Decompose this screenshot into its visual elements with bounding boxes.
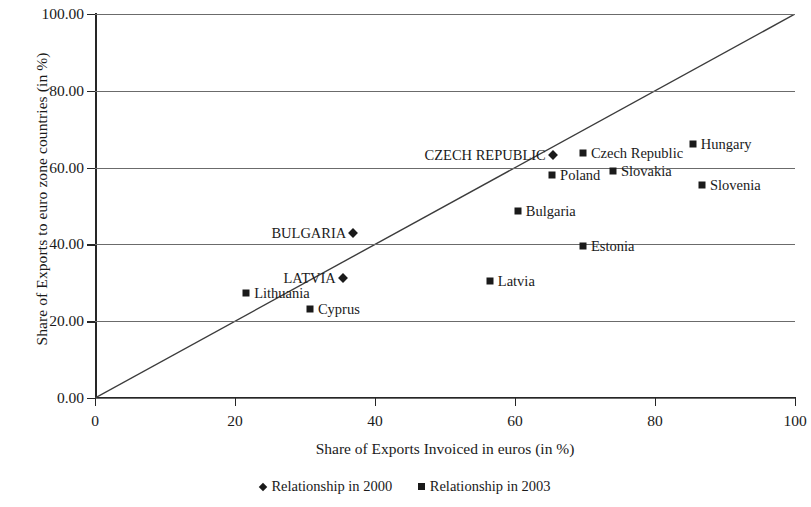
y-axis-tick xyxy=(87,14,95,15)
x-axis-tick-label: 80 xyxy=(647,412,663,430)
gridline-horizontal xyxy=(95,244,795,245)
y-axis-tick-label: 20.00 xyxy=(49,312,84,330)
y-axis-tick xyxy=(87,91,95,92)
y-axis-tick-label: 80.00 xyxy=(49,82,84,100)
x-axis-tick-label: 0 xyxy=(91,412,99,430)
data-point-label: Latvia xyxy=(498,272,535,289)
y-axis-title: Share of Exports to euro zone countries … xyxy=(33,0,51,399)
data-point-label: Lithuania xyxy=(254,285,310,302)
data-point-label: Czech Republic xyxy=(591,145,683,162)
data-point-label: Slovenia xyxy=(710,176,761,193)
data-point-cyprus-2003[interactable] xyxy=(306,305,313,312)
y-axis-tick-label: 100.00 xyxy=(41,5,84,23)
data-point-label: Poland xyxy=(560,166,600,183)
data-point-slovakia-2003[interactable] xyxy=(610,168,617,175)
chart-legend: Relationship in 2000 Relationship in 200… xyxy=(0,478,811,495)
x-axis-tick xyxy=(375,398,376,406)
y-axis-tick xyxy=(87,168,95,169)
reference-line-45-degree xyxy=(95,14,795,398)
y-axis-tick-label: 0.00 xyxy=(57,389,84,407)
data-point-slovenia-2003[interactable] xyxy=(698,181,705,188)
data-point-label: CZECH REPUBLIC xyxy=(425,146,546,163)
legend-item-2000: Relationship in 2000 xyxy=(260,478,392,495)
data-point-lithuania-2003[interactable] xyxy=(243,290,250,297)
gridline-horizontal xyxy=(95,168,795,169)
data-point-poland-2003[interactable] xyxy=(549,171,556,178)
x-axis-tick-label: 20 xyxy=(227,412,243,430)
x-axis-tick xyxy=(235,398,236,406)
data-point-latvia-2000[interactable] xyxy=(338,273,348,283)
data-point-label: Hungary xyxy=(701,136,752,153)
y-axis-tick xyxy=(87,398,95,399)
legend-item-2003: Relationship in 2003 xyxy=(418,478,550,495)
gridline-horizontal xyxy=(95,14,795,15)
y-axis-tick xyxy=(87,244,95,245)
x-axis-tick xyxy=(655,398,656,406)
data-point-estonia-2003[interactable] xyxy=(579,242,586,249)
legend-label-2000: Relationship in 2000 xyxy=(271,478,392,495)
legend-label-2003: Relationship in 2003 xyxy=(430,478,551,495)
square-marker-icon xyxy=(418,483,425,490)
data-point-czech-republic-2003[interactable] xyxy=(579,150,586,157)
data-point-label: BULGARIA xyxy=(271,224,346,241)
x-axis-title: Share of Exports Invoiced in euros (in %… xyxy=(95,440,795,458)
x-axis-tick-label: 60 xyxy=(507,412,523,430)
data-point-label: Slovakia xyxy=(621,163,672,180)
diamond-marker-icon xyxy=(259,482,267,490)
x-axis-tick xyxy=(515,398,516,406)
x-axis-tick xyxy=(95,398,96,406)
data-point-bulgaria-2000[interactable] xyxy=(348,228,358,238)
data-point-bulgaria-2003[interactable] xyxy=(514,207,521,214)
x-axis-tick xyxy=(795,398,796,406)
gridline-horizontal xyxy=(95,321,795,322)
y-axis-tick-label: 60.00 xyxy=(49,159,84,177)
y-axis-tick xyxy=(87,321,95,322)
scatter-chart: Share of Exports to euro zone countries … xyxy=(0,0,811,507)
y-axis-tick-label: 40.00 xyxy=(49,235,84,253)
data-point-label: Bulgaria xyxy=(526,202,576,219)
data-point-latvia-2003[interactable] xyxy=(486,277,493,284)
x-axis-tick-label: 40 xyxy=(367,412,383,430)
gridline-horizontal xyxy=(95,91,795,92)
data-point-label: Cyprus xyxy=(318,300,360,317)
data-point-label: Estonia xyxy=(591,237,635,254)
gridline-horizontal xyxy=(95,398,795,399)
data-point-hungary-2003[interactable] xyxy=(689,141,696,148)
data-point-czech-republic-2000[interactable] xyxy=(548,150,558,160)
x-axis-tick-label: 100 xyxy=(783,412,806,430)
plot-area: 0.0020.0040.0060.0080.00100.000204060801… xyxy=(95,14,795,398)
